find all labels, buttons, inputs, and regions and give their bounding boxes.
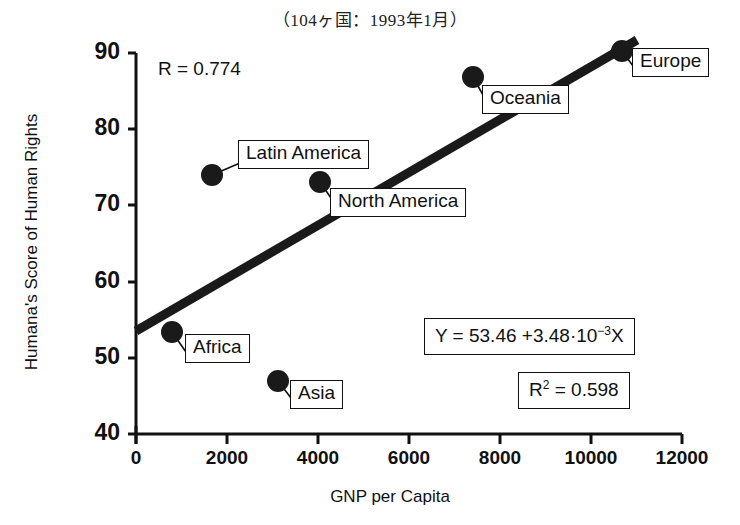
x-tick-label-0: 0 xyxy=(106,447,166,469)
y-tick-label-80: 80 xyxy=(62,114,120,141)
data-point-europe xyxy=(611,40,633,62)
callout-latin-america: Latin America xyxy=(238,140,369,169)
scatter-chart-figure: （104ヶ国：1993年1月） xyxy=(0,0,740,525)
x-tick-label-8000: 8000 xyxy=(460,447,540,469)
x-tick-label-4000: 4000 xyxy=(278,447,358,469)
y-tick-label-60: 60 xyxy=(62,267,120,294)
data-point-latin-america xyxy=(201,164,223,186)
callout-africa: Africa xyxy=(185,334,250,363)
equation-prefix: Y = 53.46 +3.48·10 xyxy=(435,325,597,346)
data-point-asia xyxy=(267,370,289,392)
regression-equation-box: Y = 53.46 +3.48·10−3X xyxy=(424,318,635,355)
r-squared-exponent: 2 xyxy=(543,378,550,392)
callout-oceania: Oceania xyxy=(482,85,569,114)
y-axis-title: Humana's Score of Human Rights xyxy=(22,92,42,392)
equation-suffix: X xyxy=(611,325,624,346)
y-tick-label-90: 90 xyxy=(62,38,120,65)
y-tick-label-70: 70 xyxy=(62,190,120,217)
equation-exponent: −3 xyxy=(597,324,611,338)
y-tick-label-40: 40 xyxy=(62,419,120,446)
r-squared-symbol: R xyxy=(529,379,543,400)
x-tick-label-6000: 6000 xyxy=(369,447,449,469)
data-point-north-america xyxy=(309,171,331,193)
r-squared-box: R2 = 0.598 xyxy=(518,372,630,409)
x-tick-label-12000: 12000 xyxy=(637,447,727,469)
x-tick-label-10000: 10000 xyxy=(546,447,636,469)
r-squared-value: = 0.598 xyxy=(555,379,619,400)
correlation-annotation: R = 0.774 xyxy=(158,58,241,80)
callout-europe: Europe xyxy=(632,48,709,77)
y-tick-label-50: 50 xyxy=(62,343,120,370)
data-point-oceania xyxy=(462,66,484,88)
x-tick-label-2000: 2000 xyxy=(187,447,267,469)
x-axis-title: GNP per Capita xyxy=(240,487,540,507)
callout-north-america: North America xyxy=(330,188,466,217)
data-point-africa xyxy=(161,321,183,343)
callout-asia: Asia xyxy=(290,380,343,409)
